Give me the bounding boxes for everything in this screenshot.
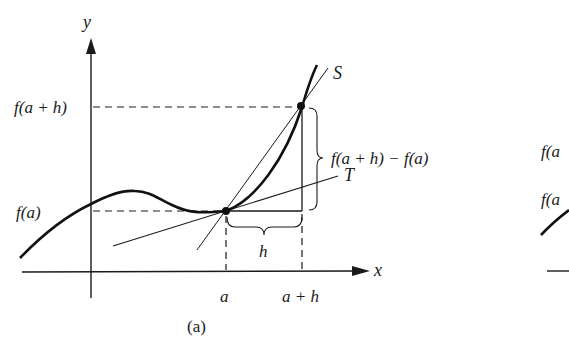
partial-label-1: f(a [541, 142, 560, 161]
tangent-label: T [344, 165, 356, 185]
partial-curve [541, 210, 569, 235]
point-a-plus-h [297, 102, 305, 110]
secant-line [197, 68, 328, 250]
x-tick-a: a [220, 287, 229, 306]
x-axis-label: x [373, 260, 382, 280]
y-axis-label: y [81, 12, 91, 32]
y-tick-f-a-plus-h: f(a + h) [14, 98, 67, 117]
dashed-guides [93, 107, 302, 270]
x-axis [22, 266, 370, 276]
secant-label: S [333, 63, 342, 83]
point-a [222, 207, 230, 215]
figure-caption: (a) [187, 317, 206, 336]
derivative-diagram: y x f(a + h) f(a) a a + h S T f(a + h) −… [0, 0, 569, 344]
partial-label-2: f(a [541, 190, 560, 209]
h-label: h [259, 242, 268, 261]
y-axis [86, 38, 96, 298]
y-axis-arrow-icon [86, 38, 96, 54]
y-tick-f-a: f(a) [16, 203, 41, 222]
vertical-brace [309, 108, 323, 210]
x-tick-a-plus-h: a + h [282, 287, 319, 306]
difference-label: f(a + h) − f(a) [331, 149, 429, 168]
x-axis-arrow-icon [352, 266, 370, 276]
horizontal-brace [227, 217, 302, 235]
